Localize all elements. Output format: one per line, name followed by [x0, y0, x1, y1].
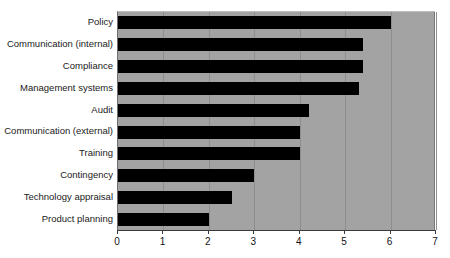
- x-axis-label: 3: [243, 236, 263, 248]
- y-axis-label: Policy: [0, 16, 113, 27]
- x-axis-label: 2: [198, 236, 218, 248]
- bar-row: [118, 209, 435, 231]
- bar: [118, 126, 300, 139]
- bar-row: [118, 12, 435, 34]
- bar-row: [118, 143, 435, 165]
- x-axis-tick: [208, 230, 209, 234]
- x-axis-label: 1: [152, 236, 172, 248]
- bar: [118, 82, 359, 95]
- x-axis-tick: [390, 230, 391, 234]
- y-axis-category-labels: PolicyCommunication (internal)Compliance…: [0, 11, 113, 230]
- bar: [118, 104, 309, 117]
- x-axis-tick: [117, 230, 118, 234]
- x-axis-tick: [162, 230, 163, 234]
- x-axis-tick: [344, 230, 345, 234]
- y-axis-label: Compliance: [0, 60, 113, 71]
- plot-area: [117, 11, 435, 230]
- x-axis-line: [117, 230, 436, 231]
- bar-chart: ▪ PolicyCommunication (internal)Complian…: [0, 0, 450, 258]
- bar-row: [118, 122, 435, 144]
- y-axis-label: Management systems: [0, 82, 113, 93]
- bar: [118, 169, 254, 182]
- y-axis-label: Communication (internal): [0, 38, 113, 49]
- x-axis-tick: [253, 230, 254, 234]
- y-axis-label: Training: [0, 147, 113, 158]
- y-axis-label: Contingency: [0, 169, 113, 180]
- y-axis-label: Technology appraisal: [0, 191, 113, 202]
- bar-row: [118, 165, 435, 187]
- x-axis-label: 5: [334, 236, 354, 248]
- bar: [118, 16, 391, 29]
- bar-row: [118, 78, 435, 100]
- bar-row: [118, 187, 435, 209]
- bar-row: [118, 100, 435, 122]
- bar: [118, 213, 209, 226]
- bar: [118, 191, 232, 204]
- x-axis-label: 6: [380, 236, 400, 248]
- x-axis-tick: [435, 230, 436, 234]
- x-axis-label: 7: [425, 236, 445, 248]
- cropped-title-fragment: ▪: [22, 0, 26, 3]
- bar-row: [118, 34, 435, 56]
- y-axis-label: Communication (external): [0, 125, 113, 136]
- y-axis-label: Product planning: [0, 213, 113, 224]
- x-axis-label: 0: [107, 236, 127, 248]
- x-axis-label: 4: [289, 236, 309, 248]
- bar: [118, 60, 363, 73]
- x-axis-tick: [299, 230, 300, 234]
- bar: [118, 147, 300, 160]
- bar: [118, 38, 363, 51]
- y-axis-label: Audit: [0, 104, 113, 115]
- gridline-7: [436, 12, 437, 230]
- bar-row: [118, 56, 435, 78]
